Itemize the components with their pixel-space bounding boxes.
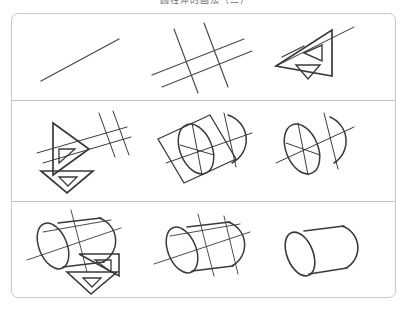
step-cell-1 xyxy=(11,13,140,100)
step-9-illustration xyxy=(268,202,396,298)
step-cell-9 xyxy=(268,202,396,298)
step-2-illustration xyxy=(140,13,268,100)
step-1-illustration xyxy=(11,13,140,100)
step-cell-6 xyxy=(268,101,396,201)
step-cell-8 xyxy=(140,202,268,298)
step-cell-5 xyxy=(140,101,268,201)
page-caption: 圆柱体的画法（二） xyxy=(0,0,410,4)
step-5-illustration xyxy=(140,101,268,201)
step-cell-7 xyxy=(11,202,140,298)
step-3-illustration xyxy=(268,13,396,100)
step-cell-4 xyxy=(11,101,140,201)
step-cell-3 xyxy=(268,13,396,100)
step-4-illustration xyxy=(11,101,140,201)
step-6-illustration xyxy=(268,101,396,201)
step-8-illustration xyxy=(140,202,268,298)
step-7-illustration xyxy=(11,202,140,298)
step-cell-2 xyxy=(140,13,268,100)
